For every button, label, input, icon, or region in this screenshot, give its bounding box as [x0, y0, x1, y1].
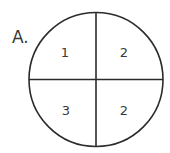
quadrant-circle-diagram: A. 1 2 3 2: [0, 0, 170, 153]
region-value: 3: [62, 103, 70, 118]
region-top-right: 2: [120, 45, 128, 60]
region-top-left: 1: [61, 45, 69, 60]
region-bottom-right: 2: [120, 103, 128, 118]
figure-label: A.: [12, 27, 29, 47]
region-value: 2: [120, 45, 128, 60]
region-value: 2: [120, 103, 128, 118]
region-value: 1: [61, 45, 69, 60]
region-bottom-left: 3: [62, 103, 70, 118]
